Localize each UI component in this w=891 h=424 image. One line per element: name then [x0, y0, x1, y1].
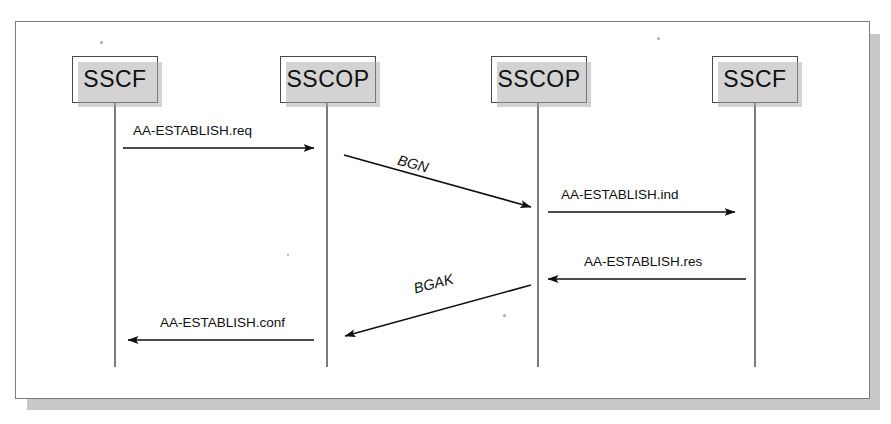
message-label-0: AA-ESTABLISH.req — [133, 123, 252, 138]
scan-speck-0 — [100, 41, 103, 44]
scan-speck-2 — [503, 314, 506, 317]
message-label-3: AA-ESTABLISH.res — [584, 254, 702, 269]
entity-label: SSCF — [83, 66, 146, 93]
scan-speck-1 — [657, 37, 660, 40]
entity-box-1[interactable]: SSCOP — [280, 56, 376, 103]
entity-label: SSCOP — [497, 66, 580, 93]
entity-box-3[interactable]: SSCF — [712, 56, 798, 103]
entity-label: SSCOP — [286, 66, 369, 93]
entity-box-2[interactable]: SSCOP — [491, 56, 587, 103]
message-label-5: AA-ESTABLISH.conf — [160, 315, 285, 330]
message-label-2: AA-ESTABLISH.ind — [561, 187, 679, 202]
entity-label: SSCF — [723, 66, 786, 93]
message-arrow-1 — [344, 155, 531, 207]
message-arrow-group — [123, 148, 746, 340]
figure-page: SSCFSSCOPSSCOPSSCF AA-ESTABLISH.reqBGNAA… — [0, 0, 891, 424]
scan-speck-3 — [287, 254, 289, 256]
message-arrow-4 — [345, 285, 531, 336]
entity-box-0[interactable]: SSCF — [72, 56, 158, 103]
